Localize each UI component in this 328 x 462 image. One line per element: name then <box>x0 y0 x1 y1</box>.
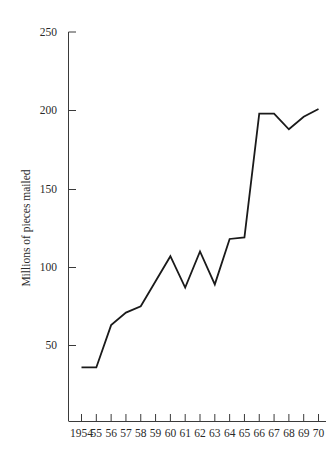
x-tick-label-1957: 57 <box>120 427 132 439</box>
x-tick-label-1962: 62 <box>194 427 206 439</box>
x-axis-ticks <box>82 414 319 422</box>
x-tick-label-1963: 63 <box>209 427 221 439</box>
x-tick-label-1969: 69 <box>298 427 310 439</box>
x-tick-label-1966: 66 <box>254 427 266 439</box>
x-tick-label-1958: 58 <box>135 427 147 439</box>
chart-container: Millions of pieces mailed 250 200 150 10… <box>0 0 328 462</box>
y-tick-label-200: 200 <box>40 104 58 116</box>
x-tick-label-1967: 67 <box>268 427 280 439</box>
line-chart: Millions of pieces mailed 250 200 150 10… <box>0 0 328 462</box>
x-tick-label-1961: 61 <box>179 427 191 439</box>
y-tick-label-50: 50 <box>46 339 58 351</box>
y-tick-label-100: 100 <box>40 261 58 273</box>
y-axis-title: Millions of pieces mailed <box>20 169 33 286</box>
data-series-line <box>82 109 319 368</box>
x-tick-label-1965: 65 <box>239 427 251 439</box>
x-tick-label-1968: 68 <box>283 427 295 439</box>
x-tick-label-1964: 64 <box>224 427 236 439</box>
x-tick-label-1956: 56 <box>105 427 117 439</box>
x-tick-label-1955: 55 <box>91 427 103 439</box>
y-tick-label-250: 250 <box>40 26 58 38</box>
x-tick-label-1960: 60 <box>165 427 177 439</box>
x-tick-label-1959: 59 <box>150 427 162 439</box>
y-tick-label-150: 150 <box>40 183 58 195</box>
x-tick-label-1970: 70 <box>313 427 325 439</box>
x-axis-tick-labels: 195455565758596061626364656667686970 <box>70 427 325 439</box>
